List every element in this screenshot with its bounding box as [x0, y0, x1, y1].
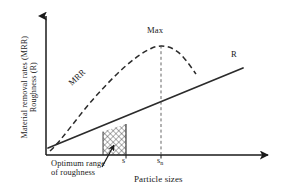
max-annotation-label: Max: [147, 26, 163, 36]
y-axis-label-line2: Roughness (R): [29, 12, 38, 162]
optimum-range-label-line1: Optimum range: [51, 159, 105, 168]
optimum-range-shaded-region: [103, 124, 126, 155]
plot-canvas: [0, 0, 284, 194]
optimum-range-label: Optimum range of roughness: [51, 159, 105, 178]
x-tick-label-sn: sn: [157, 157, 163, 166]
y-axis-label-line1: Material removal rates (MRR): [20, 36, 29, 139]
x-axis-label: Particle sizes: [134, 174, 183, 184]
x-tick-label-s: s: [122, 157, 125, 166]
y-axis-label: Material removal rates (MRR) Roughness (…: [20, 12, 38, 162]
x-tick-label-sn-subscript: n: [160, 160, 163, 166]
figure-container: Material removal rates (MRR) Roughness (…: [0, 0, 284, 194]
optimum-range-label-line2: of roughness: [51, 168, 105, 177]
r-curve-label: R: [231, 50, 237, 60]
